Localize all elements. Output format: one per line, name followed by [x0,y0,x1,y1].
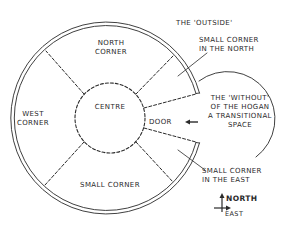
partitions [45,51,196,185]
door-label: DOOR [149,118,172,127]
small-corner-label: SMALL CORNER [70,181,150,190]
hogan-diagram: NORTH CORNER WEST CORNER CENTRE SMALL CO… [0,0,290,231]
centre-circle [75,83,145,153]
compass-north-label: NORTH [226,194,257,203]
small-corner-north-label: SMALL CORNER IN THE NORTH [199,36,259,54]
leader-east [178,150,205,170]
centre-label: CENTRE [86,103,134,112]
small-corner-east-line-1: SMALL CORNER [202,167,262,176]
door-arrow-icon [185,120,198,125]
north-corner-label: NORTH CORNER [90,39,132,57]
small-corner-north-line-1: SMALL CORNER [199,36,259,45]
without-label: THE 'WITHOUT' OF THE HOGAN A TRANSITIONA… [207,94,273,130]
west-corner-line-1: WEST [13,110,53,119]
outside-label: THE 'OUTSIDE' [176,19,232,28]
without-line-4: SPACE [207,121,273,130]
north-corner-line-1: NORTH [90,39,132,48]
without-line-3: A TRANSITIONAL [207,112,273,121]
compass-east-label: EAST [225,210,243,219]
without-line-2: OF THE HOGAN [207,103,273,112]
small-corner-north-line-2: IN THE NORTH [199,45,259,54]
west-corner-label: WEST CORNER [13,110,53,128]
small-corner-east-line-2: IN THE EAST [202,176,262,185]
north-corner-line-2: CORNER [90,48,132,57]
west-corner-line-2: CORNER [13,119,53,128]
small-corner-east-label: SMALL CORNER IN THE EAST [202,167,262,185]
without-line-1: THE 'WITHOUT' [207,94,273,103]
